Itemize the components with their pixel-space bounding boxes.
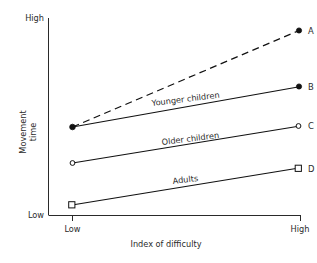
fitts-law-line-chart: High Low Movement time Low High Index of… <box>0 0 317 263</box>
series-b-group: B Younger children <box>73 82 315 128</box>
series-c-marker-end <box>296 124 301 129</box>
series-d-endpoint-label: D <box>308 164 314 174</box>
series-a-endpoint-label: A <box>308 26 314 36</box>
series-ab-shared-origin-marker <box>70 124 76 130</box>
series-d-inline-label: Adults <box>172 173 199 186</box>
series-d-group: D Adults <box>69 164 315 208</box>
y-axis-label-high: High <box>25 13 44 23</box>
series-d-marker-start <box>69 202 75 208</box>
series-c-marker-start <box>70 161 75 166</box>
series-c-line <box>73 127 298 164</box>
x-axis-label-high: High <box>291 224 310 234</box>
y-axis-title: Movement time <box>18 110 38 154</box>
y-axis-title-line2: time <box>28 123 38 142</box>
series-a-marker-end <box>296 28 301 33</box>
series-c-endpoint-label: C <box>308 121 314 131</box>
y-axis-label-low: Low <box>28 210 44 220</box>
series-d-marker-end <box>295 165 301 171</box>
series-a-line <box>73 31 299 127</box>
series-c-group: C Older children <box>70 121 314 165</box>
series-a-group: A <box>73 26 315 128</box>
x-axis-label-low: Low <box>64 224 80 234</box>
series-b-endpoint-label: B <box>308 82 314 92</box>
x-axis-title: Index of difficulty <box>130 239 201 249</box>
chart-figure: High Low Movement time Low High Index of… <box>0 0 317 263</box>
y-axis-title-line1: Movement <box>18 110 28 154</box>
series-b-inline-label: Younger children <box>150 90 220 108</box>
axes-group <box>49 18 302 221</box>
series-b-marker-end <box>296 84 301 89</box>
